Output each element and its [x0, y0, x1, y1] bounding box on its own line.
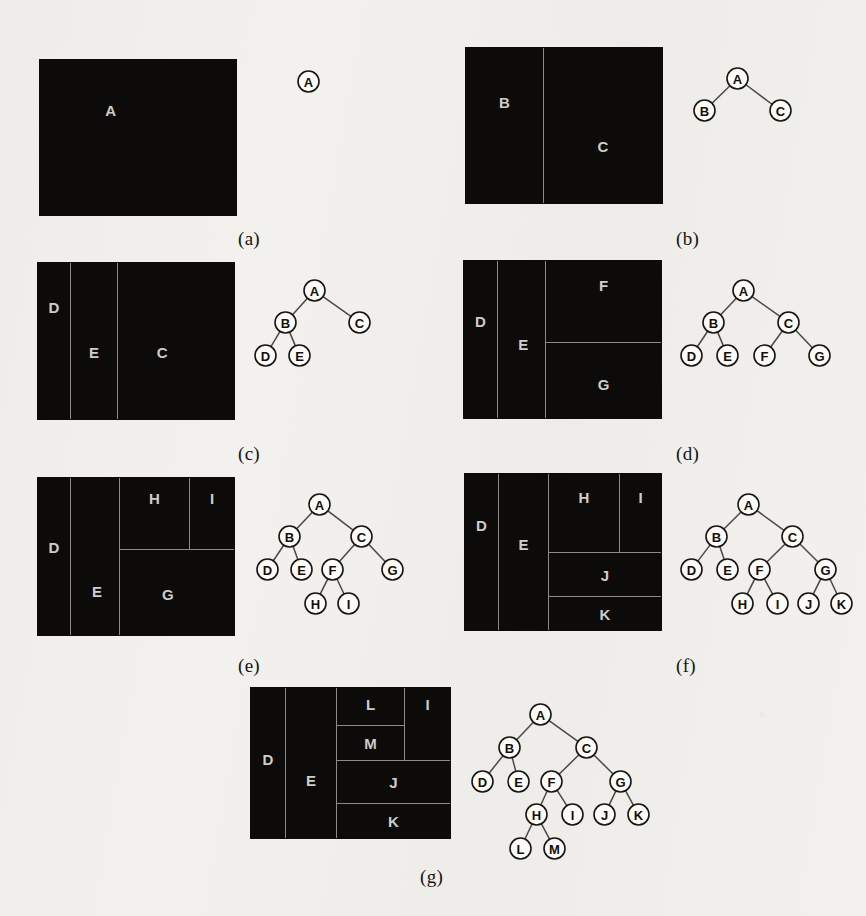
tree-node-label: A — [315, 498, 325, 513]
tree-node-label: C — [776, 104, 786, 119]
tree-node-label: E — [297, 563, 306, 578]
tree-node-label: D — [261, 349, 270, 364]
tree-edge — [764, 579, 772, 594]
partition-cell: F — [546, 261, 661, 343]
tree-node: F — [541, 771, 562, 792]
tree-edge — [830, 579, 837, 594]
panel-caption-c: (c) — [238, 443, 260, 465]
partition-cell-label: J — [389, 774, 397, 791]
partition-cell-label: E — [518, 336, 528, 353]
tree-node-label: H — [311, 597, 320, 612]
partition-cell-label: D — [49, 539, 60, 556]
bsp-tree-c: ABCDE — [252, 262, 376, 372]
bsp-tree-g: ABCDEFGHIJKLM — [468, 686, 655, 865]
tree-node: E — [508, 771, 529, 792]
tree-edge — [559, 755, 579, 774]
tree-node: H — [526, 804, 547, 825]
partition-cell: A — [40, 60, 236, 215]
tree-node-label: E — [723, 563, 732, 578]
tree-node: F — [322, 559, 343, 580]
tree-node: B — [279, 526, 300, 547]
partition-cell-label: D — [263, 750, 274, 767]
tree-node: H — [732, 593, 753, 614]
bsp-tree-b: ABC — [676, 50, 797, 127]
tree-node: D — [255, 345, 276, 366]
tree-node: C — [770, 100, 791, 121]
panel-caption-e: (e) — [238, 655, 260, 677]
tree-node: G — [610, 771, 631, 792]
tree-edge — [757, 511, 784, 531]
partition-cell-label: M — [364, 735, 377, 752]
partition-cell-label: H — [149, 489, 160, 506]
tree-node-label: G — [820, 563, 830, 578]
partition-cell: K — [337, 804, 450, 838]
tree-edge — [297, 512, 313, 529]
tree-edge — [517, 722, 534, 740]
partition-cell-label: K — [388, 813, 399, 830]
partition-cell: J — [549, 553, 661, 597]
tree-edge — [273, 545, 283, 561]
tree-node: E — [717, 345, 738, 366]
tree-node-label: G — [387, 563, 397, 578]
tree-node-label: B — [505, 741, 514, 756]
partition-cell: D — [465, 474, 499, 630]
partition-cell: E — [499, 474, 549, 630]
partition-diagram-a: A — [40, 60, 236, 215]
partition-diagram-g: DELMIJK — [251, 688, 450, 838]
tree-node: B — [706, 526, 727, 547]
tree-edge — [489, 756, 503, 774]
tree-node: J — [594, 804, 615, 825]
tree-node-label: D — [687, 349, 696, 364]
tree-node-label: C — [582, 741, 592, 756]
tree-node-label: C — [788, 530, 798, 545]
partition-cell: D — [251, 688, 286, 838]
panel-caption-d: (d) — [676, 443, 699, 465]
tree-node-label: I — [776, 597, 780, 612]
partition-cell: E — [498, 261, 546, 418]
tree-node: G — [815, 559, 836, 580]
partition-cell: D — [464, 261, 498, 418]
tree-edge — [609, 791, 616, 805]
partition-cell: I — [405, 688, 450, 761]
tree-node: C — [782, 526, 803, 547]
tree-node-label: F — [761, 349, 769, 364]
tree-edge — [697, 331, 707, 347]
partition-cell-label: K — [600, 605, 611, 622]
tree-node-label: G — [814, 349, 824, 364]
tree-node-label: C — [355, 316, 365, 331]
tree-edge — [712, 86, 730, 103]
partition-cell-label: H — [579, 489, 590, 506]
partition-cell: D — [38, 263, 71, 419]
tree-edge — [328, 511, 353, 530]
tree-node-label: H — [738, 597, 747, 612]
tree-node: E — [717, 559, 738, 580]
partition-cell-label: I — [638, 489, 642, 506]
tree-node-label: F — [548, 775, 556, 790]
tree-node: A — [733, 280, 754, 301]
partition-cell: C — [544, 48, 662, 203]
partition-cell-label: E — [89, 343, 99, 360]
partition-cell-label: G — [162, 586, 174, 603]
tree-node-label: A — [744, 498, 754, 513]
tree-node: D — [257, 559, 278, 580]
tree-edge — [724, 512, 741, 529]
tree-node: H — [305, 593, 326, 614]
tree-node-label: F — [329, 563, 337, 578]
tree-edge — [557, 790, 567, 805]
tree-edge — [594, 755, 613, 774]
tree-edge — [339, 544, 354, 561]
partition-cell-label: E — [518, 536, 528, 553]
partition-cell-label: C — [598, 137, 609, 154]
tree-edge — [698, 545, 710, 561]
tree-edge — [767, 544, 785, 562]
tree-node: C — [576, 737, 597, 758]
tree-edge — [747, 579, 755, 594]
tree-node: A — [304, 280, 325, 301]
tree-node-label: B — [712, 530, 721, 545]
tree-edge — [323, 297, 351, 317]
tree-node-label: B — [285, 530, 294, 545]
tree-edge — [771, 331, 783, 347]
tree-edge — [293, 546, 298, 559]
partition-cell-label: D — [475, 312, 486, 329]
partition-cell-label: I — [210, 489, 214, 506]
